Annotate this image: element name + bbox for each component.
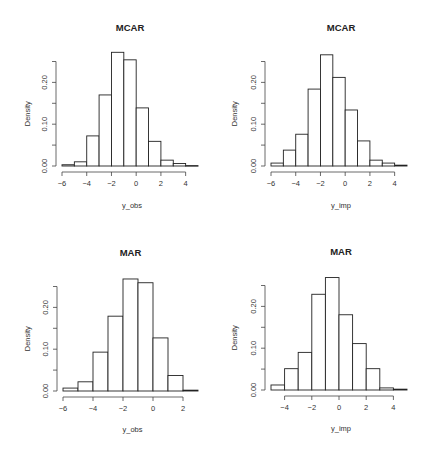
x-tick-label: −6 [59,404,68,413]
y-tick-label: 0.00 [40,159,49,174]
histogram-bar [271,163,283,166]
histogram-bar [161,160,173,166]
histogram-bar [283,150,295,166]
x-tick-label: −2 [308,403,317,412]
histogram-bar [366,369,380,390]
histogram-bar [149,141,161,166]
x-tick-label: −6 [58,179,67,188]
histogram-bar [345,110,357,166]
y-tick-label: 0.10 [40,117,49,132]
histogram-bar [312,294,326,390]
histogram-bar [382,163,394,166]
y-tick-label: 0.00 [249,383,258,398]
histogram-bar [183,390,198,391]
x-tick-label: −4 [82,179,91,188]
histogram-panel-3: MAR−6−4−202y_obs0.000.100.20Density [23,247,198,434]
x-tick-label: 4 [393,179,397,188]
histogram-bar [136,108,148,166]
chart-title: MAR [120,247,142,258]
x-tick-label: 0 [337,403,341,412]
y-tick-label: 0.20 [249,75,258,90]
histogram-bar [138,283,153,391]
y-axis-label: Density [230,325,239,350]
histogram-bar [87,136,99,166]
x-axis-label: y_imp [331,424,351,433]
histogram-panel-1: MCAR−6−4−2024y_obs0.000.100.20Density [23,22,198,210]
y-tick-label: 0.10 [249,117,258,132]
histogram-bar [285,369,299,390]
y-axis-label: Density [230,101,239,126]
y-axis-label: Density [23,326,32,351]
y-tick-label: 0.00 [41,384,50,399]
x-tick-label: 0 [134,179,138,188]
x-tick-label: −6 [267,179,276,188]
y-tick-label: 0.20 [249,299,258,314]
histogram-bar [93,352,108,391]
x-tick-label: 0 [151,404,155,413]
histogram-bar [333,77,345,166]
x-tick-label: 2 [368,179,372,188]
histogram-bar [78,382,93,391]
histogram-bar [186,166,198,167]
histogram-bar [99,95,111,166]
x-tick-label: 2 [159,179,163,188]
x-tick-label: −4 [291,179,300,188]
x-tick-label: 4 [184,179,188,188]
x-axis-label: y_obs [122,425,142,434]
y-tick-label: 0.10 [41,342,50,357]
histogram-bar [62,165,74,166]
histogram-bar [108,316,123,391]
histogram-bar [298,352,312,390]
histogram-bar [153,338,168,391]
x-axis-label: y_obs [122,201,142,210]
y-tick-label: 0.20 [41,300,50,315]
chart-title: MCAR [116,22,145,33]
x-axis-label: y_imp [331,201,351,210]
x-tick-label: −2 [119,404,128,413]
x-tick-label: −2 [316,179,325,188]
histogram-panel-2: MCAR−6−4−2024y_imp0.000.100.20Density [230,22,407,210]
x-tick-label: 0 [343,179,347,188]
histogram-bar [325,278,339,390]
histogram-bar [353,344,367,390]
y-tick-label: 0.10 [249,341,258,356]
histogram-panel-4: MAR−4−2024y_imp0.000.100.20Density [230,246,407,433]
x-tick-label: 2 [181,404,185,413]
histogram-bar [123,279,138,391]
x-tick-label: 4 [391,403,395,412]
histogram-bar [393,389,407,390]
histogram-bar [296,134,308,166]
histogram-bar [124,60,136,166]
x-tick-label: −4 [280,403,289,412]
histogram-bar [370,160,382,166]
x-tick-label: 2 [364,403,368,412]
chart-title: MCAR [327,22,356,33]
histogram-bar [271,385,285,390]
figure-canvas: MCAR−6−4−2024y_obs0.000.100.20DensityMCA… [0,0,427,455]
y-tick-label: 0.20 [40,75,49,90]
histogram-bar [320,55,332,166]
chart-title: MAR [330,246,352,257]
y-axis-label: Density [23,101,32,126]
x-tick-label: −4 [89,404,98,413]
histogram-bar [308,89,320,166]
x-tick-label: −2 [107,179,116,188]
histogram-bar [358,141,370,166]
histogram-bar [339,315,353,390]
histogram-bar [74,162,86,166]
histogram-bar [173,163,185,166]
histogram-figure: MCAR−6−4−2024y_obs0.000.100.20DensityMCA… [0,0,427,455]
histogram-bar [395,165,407,166]
y-tick-label: 0.00 [249,159,258,174]
histogram-bar [380,388,394,390]
histogram-bar [63,388,78,391]
histogram-bar [168,376,183,391]
histogram-bar [111,52,123,166]
